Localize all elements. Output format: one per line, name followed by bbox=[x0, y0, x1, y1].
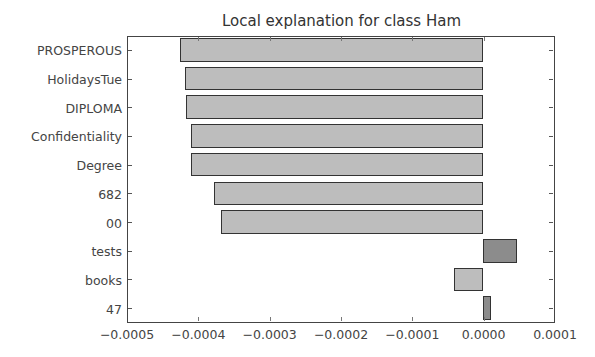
x-tick-label: −0.0001 bbox=[385, 327, 439, 342]
y-tick-label: 682 bbox=[98, 186, 122, 201]
y-tick-label: books bbox=[85, 272, 122, 287]
y-tick bbox=[128, 251, 132, 252]
y-tick-label: tests bbox=[91, 244, 122, 259]
y-tick bbox=[128, 50, 132, 51]
x-tick-label: 0.0001 bbox=[533, 327, 577, 342]
x-tick bbox=[484, 317, 485, 321]
x-tick bbox=[341, 317, 342, 321]
x-tick-label: −0.0004 bbox=[171, 327, 225, 342]
bar bbox=[185, 67, 483, 91]
y-tick bbox=[549, 279, 553, 280]
y-tick bbox=[128, 222, 132, 223]
y-tick bbox=[549, 50, 553, 51]
y-tick-label: Confidentiality bbox=[31, 129, 122, 144]
x-tick bbox=[412, 317, 413, 321]
x-tick bbox=[270, 37, 271, 41]
x-tick bbox=[198, 37, 199, 41]
y-tick-label: 00 bbox=[106, 215, 122, 230]
y-tick bbox=[128, 308, 132, 309]
y-tick bbox=[549, 165, 553, 166]
x-tick bbox=[270, 317, 271, 321]
bar bbox=[191, 124, 483, 148]
x-tick bbox=[341, 37, 342, 41]
y-tick bbox=[549, 107, 553, 108]
bar bbox=[454, 268, 483, 292]
y-tick-label: Degree bbox=[77, 158, 123, 173]
y-tick bbox=[128, 136, 132, 137]
y-tick-label: 47 bbox=[106, 301, 122, 316]
bar bbox=[214, 182, 483, 206]
y-tick-label: DIPLOMA bbox=[65, 100, 122, 115]
y-tick bbox=[128, 79, 132, 80]
x-tick bbox=[412, 37, 413, 41]
y-tick bbox=[549, 193, 553, 194]
y-tick bbox=[128, 193, 132, 194]
bar bbox=[191, 153, 483, 177]
bar bbox=[180, 38, 483, 62]
y-tick-label: HolidaysTue bbox=[47, 72, 122, 87]
y-tick bbox=[128, 279, 132, 280]
x-tick bbox=[484, 37, 485, 41]
x-tick bbox=[198, 317, 199, 321]
y-tick bbox=[549, 251, 553, 252]
y-tick bbox=[549, 136, 553, 137]
y-tick bbox=[549, 222, 553, 223]
y-tick bbox=[128, 165, 132, 166]
plot-area bbox=[127, 36, 555, 323]
x-tick-label: −0.0005 bbox=[100, 327, 154, 342]
bar bbox=[483, 239, 517, 263]
x-tick-label: −0.0003 bbox=[243, 327, 297, 342]
y-tick bbox=[128, 107, 132, 108]
y-tick bbox=[549, 308, 553, 309]
y-tick bbox=[549, 79, 553, 80]
bar bbox=[221, 210, 483, 234]
x-tick-label: −0.0002 bbox=[314, 327, 368, 342]
y-tick-label: PROSPEROUS bbox=[37, 43, 122, 58]
x-tick-label: 0.0000 bbox=[462, 327, 506, 342]
chart-title: Local explanation for class Ham bbox=[0, 12, 595, 30]
bar bbox=[186, 95, 483, 119]
